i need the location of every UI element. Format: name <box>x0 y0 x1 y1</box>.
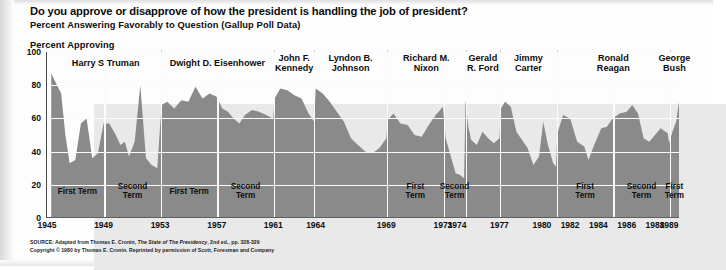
header-tick <box>274 50 275 52</box>
source-line-1: SOURCE: Adapted from Thomas E. Cronin, T… <box>30 239 260 245</box>
gridline-y-40 <box>47 152 679 153</box>
x-tick-1964: 1964 <box>300 220 332 230</box>
y-tick-80: 80 <box>3 80 41 90</box>
y-tick-100: 100 <box>3 47 41 57</box>
header-tick <box>161 50 162 52</box>
gridline-y-60 <box>47 118 679 119</box>
source-line-2: Copyright © 1980 by Thomas E. Cronin. Re… <box>30 247 274 253</box>
x-tick-1953: 1953 <box>144 220 176 230</box>
y-tick-20: 20 <box>3 180 41 190</box>
x-tick-1989: 1989 <box>653 220 685 230</box>
plot-area: First TermSecond TermFirst TermSecond Te… <box>47 52 679 218</box>
president-label: Harry S Truman <box>58 59 154 69</box>
header-tick <box>314 50 315 52</box>
x-tick-1961: 1961 <box>257 220 289 230</box>
header-tick <box>670 50 671 52</box>
page-edge-left <box>0 0 14 266</box>
x-axis-line <box>47 217 679 218</box>
president-label: George Bush <box>626 54 722 73</box>
x-tick-1984: 1984 <box>582 220 614 230</box>
x-tick-1986: 1986 <box>611 220 643 230</box>
x-tick-1949: 1949 <box>88 220 120 230</box>
divider-president-start <box>314 51 315 217</box>
header-tick <box>466 50 467 52</box>
header-tick <box>557 50 558 52</box>
gridline-y-80 <box>47 85 679 86</box>
x-tick-1982: 1982 <box>554 220 586 230</box>
chart-subtitle: Percent Answering Favorably to Question … <box>30 20 300 30</box>
chart-title: Do you approve or disapprove of how the … <box>30 5 468 17</box>
term-label: First Term <box>640 183 708 201</box>
header-tick <box>387 50 388 52</box>
x-tick-1980: 1980 <box>526 220 558 230</box>
x-tick-1969: 1969 <box>370 220 402 230</box>
x-tick-1974: 1974 <box>441 220 473 230</box>
source-book-title: The State of The Presidency <box>138 239 208 245</box>
y-axis-title: Percent Approving <box>30 40 115 50</box>
president-label: Jimmy Carter <box>480 54 576 73</box>
y-tick-40: 40 <box>3 147 41 157</box>
x-tick-1945: 1945 <box>31 220 63 230</box>
term-label: Second Term <box>212 183 280 201</box>
x-tick-1957: 1957 <box>201 220 233 230</box>
header-tick <box>500 50 501 52</box>
x-tick-1977: 1977 <box>483 220 515 230</box>
divider-president-start <box>500 51 501 217</box>
term-label: Second Term <box>421 183 489 201</box>
y-tick-60: 60 <box>3 113 41 123</box>
